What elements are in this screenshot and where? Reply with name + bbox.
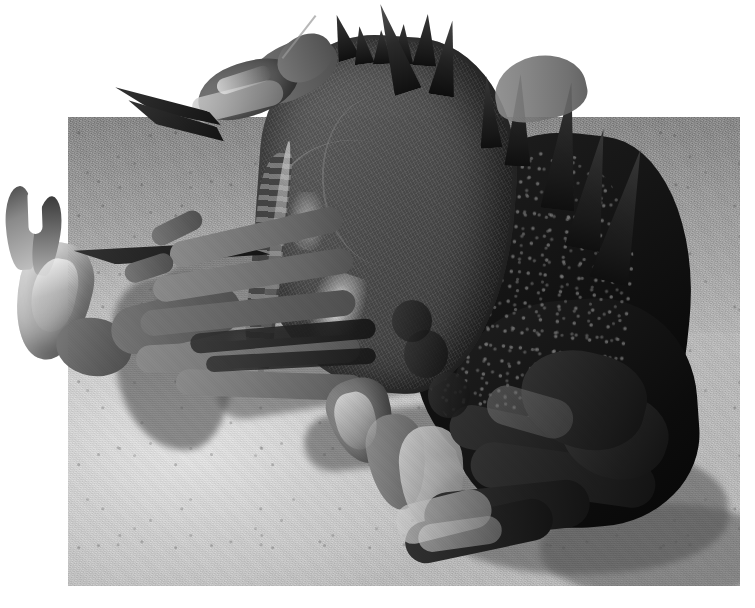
frame-mask-right xyxy=(740,117,755,608)
frame-mask-left-lower xyxy=(0,392,68,608)
image-canvas: Black and white photograph of a large sp… xyxy=(0,0,755,608)
limb-knuckle xyxy=(428,372,470,418)
limb-knuckle xyxy=(392,300,432,342)
frame-mask-bottom xyxy=(0,586,755,608)
